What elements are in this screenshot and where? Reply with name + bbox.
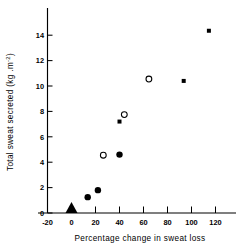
x-tick-label: 100 [185, 218, 197, 227]
y-axis-title-main: Total sweat secreted (kg .m [6, 62, 15, 171]
data-point-filled-square [118, 120, 122, 124]
chart-figure: 0 2 4 6 8 10 12 14 -20 0 20 40 60 [0, 0, 243, 246]
data-point-open-circle [100, 152, 106, 158]
data-point-open-circle [121, 112, 127, 118]
y-axis-ticks [48, 35, 53, 213]
y-tick-label: 2 [40, 183, 44, 192]
y-tick-label: 4 [40, 158, 45, 167]
data-point-open-circle [146, 76, 152, 82]
x-tick-label: -20 [42, 218, 53, 227]
x-tick-label: 120 [209, 218, 221, 227]
x-axis-title: Percentage change in sweat loss [74, 234, 205, 243]
x-axis-tick-labels: -20 0 20 40 60 80 100 120 [42, 218, 222, 227]
y-tick-label: 14 [36, 31, 45, 40]
data-points-layer [66, 29, 211, 213]
y-tick-label: 6 [40, 133, 44, 142]
y-tick-label: 10 [36, 82, 44, 91]
x-tick-label: 40 [115, 218, 123, 227]
y-axis-title-end: ) [6, 53, 15, 56]
data-point-origin-triangle [66, 202, 78, 213]
y-tick-label: 12 [36, 56, 44, 65]
x-tick-label: 60 [139, 218, 147, 227]
data-point-filled-circle [116, 151, 122, 157]
data-point-filled-circle [95, 187, 101, 193]
y-axis-tick-labels: 0 2 4 6 8 10 12 14 [36, 31, 45, 218]
data-point-filled-square [207, 29, 211, 33]
data-point-filled-circle [85, 194, 91, 200]
scatter-plot: 0 2 4 6 8 10 12 14 -20 0 20 40 60 [0, 0, 243, 246]
x-tick-label: 80 [163, 218, 171, 227]
x-tick-label: 20 [91, 218, 99, 227]
y-tick-label: 8 [40, 107, 44, 116]
x-tick-label: 0 [69, 218, 73, 227]
y-tick-label: 0 [40, 209, 44, 218]
y-axis-title: Total sweat secreted (kg .m-2) [5, 53, 15, 171]
data-point-filled-square [182, 79, 186, 83]
